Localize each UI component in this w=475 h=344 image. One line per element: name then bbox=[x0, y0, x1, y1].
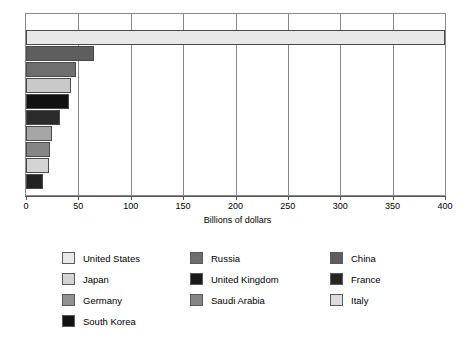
legend-swatch bbox=[62, 252, 75, 264]
x-axis-tick bbox=[340, 196, 341, 200]
x-axis-tick-label: 100 bbox=[111, 201, 151, 212]
bar bbox=[26, 110, 60, 125]
legend-label: Russia bbox=[211, 253, 240, 264]
legend-label: China bbox=[351, 253, 376, 264]
bar-row bbox=[26, 174, 445, 190]
x-axis-tick-label: 200 bbox=[216, 201, 256, 212]
bar-row bbox=[26, 94, 445, 110]
legend-item: Japan bbox=[62, 269, 140, 289]
legend-label: France bbox=[351, 274, 381, 285]
legend-item: China bbox=[330, 248, 381, 268]
legend-column: United StatesJapanGermanySouth Korea bbox=[62, 248, 140, 332]
x-axis-tick-label: 400 bbox=[425, 201, 465, 212]
bar bbox=[26, 142, 50, 157]
x-axis-title: Billions of dollars bbox=[0, 215, 475, 225]
bar-row bbox=[26, 110, 445, 126]
legend-swatch bbox=[62, 294, 75, 306]
legend-item: United Kingdom bbox=[190, 269, 279, 289]
x-axis-tick-label: 0 bbox=[6, 201, 46, 212]
plot-wrapper bbox=[25, 13, 446, 196]
x-axis-tick bbox=[183, 196, 184, 200]
legend-item: Russia bbox=[190, 248, 279, 268]
bar bbox=[26, 158, 49, 173]
legend-swatch bbox=[62, 273, 75, 285]
x-axis-tick bbox=[26, 196, 27, 200]
x-axis-tick-label: 250 bbox=[268, 201, 308, 212]
x-axis-tick-label: 50 bbox=[58, 201, 98, 212]
x-axis-tick-label: 300 bbox=[320, 201, 360, 212]
legend-item: Italy bbox=[330, 290, 381, 310]
legend-swatch bbox=[190, 273, 203, 285]
legend-item: South Korea bbox=[62, 311, 140, 331]
bar-row bbox=[26, 30, 445, 46]
x-axis-tick-label: 350 bbox=[373, 201, 413, 212]
bar-row bbox=[26, 78, 445, 94]
legend-swatch bbox=[330, 294, 343, 306]
bar bbox=[26, 62, 76, 77]
bar bbox=[26, 46, 94, 61]
legend-label: United Kingdom bbox=[211, 274, 279, 285]
x-axis-tick bbox=[131, 196, 132, 200]
legend-label: South Korea bbox=[83, 316, 136, 327]
legend-swatch bbox=[330, 252, 343, 264]
bar-row bbox=[26, 142, 445, 158]
legend-swatch bbox=[330, 273, 343, 285]
bar bbox=[26, 78, 71, 93]
legend-swatch bbox=[190, 294, 203, 306]
legend-column: ChinaFranceItaly bbox=[330, 248, 381, 311]
legend-label: Germany bbox=[83, 295, 122, 306]
legend-label: Saudi Arabia bbox=[211, 295, 265, 306]
x-axis-tick-label: 150 bbox=[163, 201, 203, 212]
legend-item: Germany bbox=[62, 290, 140, 310]
bar bbox=[26, 174, 43, 189]
x-axis-tick bbox=[236, 196, 237, 200]
legend-swatch bbox=[62, 315, 75, 327]
legend-label: Japan bbox=[83, 274, 109, 285]
bar bbox=[26, 126, 52, 141]
legend-swatch bbox=[190, 252, 203, 264]
bar-chart-figure: 050100150200250300350400 Billions of dol… bbox=[0, 0, 475, 344]
chart-legend: United StatesJapanGermanySouth Korea Rus… bbox=[62, 248, 452, 328]
bar-series bbox=[26, 30, 445, 190]
legend-item: United States bbox=[62, 248, 140, 268]
x-axis-tick bbox=[445, 196, 446, 200]
legend-column: RussiaUnited KingdomSaudi Arabia bbox=[190, 248, 279, 311]
legend-label: Italy bbox=[351, 295, 368, 306]
x-axis-tick bbox=[393, 196, 394, 200]
legend-label: United States bbox=[83, 253, 140, 264]
bar-row bbox=[26, 46, 445, 62]
legend-item: France bbox=[330, 269, 381, 289]
bar-row bbox=[26, 158, 445, 174]
x-axis-tick bbox=[288, 196, 289, 200]
bar-row bbox=[26, 126, 445, 142]
bar bbox=[26, 30, 445, 45]
bar-row bbox=[26, 62, 445, 78]
x-axis-tick bbox=[78, 196, 79, 200]
legend-item: Saudi Arabia bbox=[190, 290, 279, 310]
bar bbox=[26, 94, 69, 109]
